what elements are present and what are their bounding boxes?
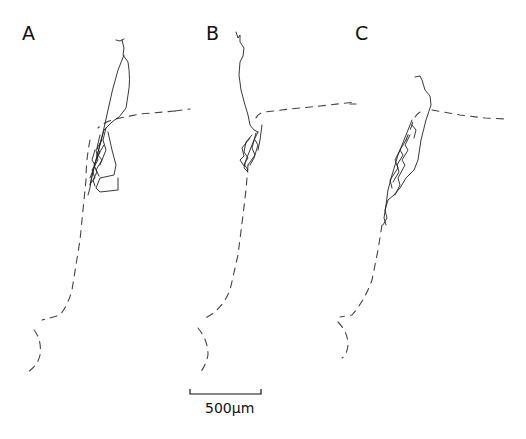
panel-c-boundary-lower (340, 225, 382, 317)
neuron-reconstruction-figure: A B C (0, 0, 526, 439)
panel-b-neuron-trace (236, 32, 262, 172)
panel-c-boundary-right (432, 110, 505, 119)
scale-bar (190, 389, 261, 394)
panel-b-boundary-upper (256, 102, 355, 118)
panel-a-boundary-upper (98, 111, 175, 128)
panel-b (175, 32, 355, 373)
panel-c (338, 76, 505, 358)
panel-c-neuron-trace (383, 76, 431, 225)
scale-bar-label: 500μm (205, 400, 254, 416)
panel-a-boundary-hook (28, 330, 40, 372)
figure-drawing (0, 0, 526, 439)
panel-a-boundary-lower (42, 140, 90, 320)
panel-b-boundary-left (175, 109, 190, 111)
panel-b-boundary-hook (198, 328, 208, 373)
panel-c-boundary-hook (338, 322, 348, 358)
panel-a (28, 39, 175, 372)
panel-b-boundary-lower (205, 165, 248, 318)
